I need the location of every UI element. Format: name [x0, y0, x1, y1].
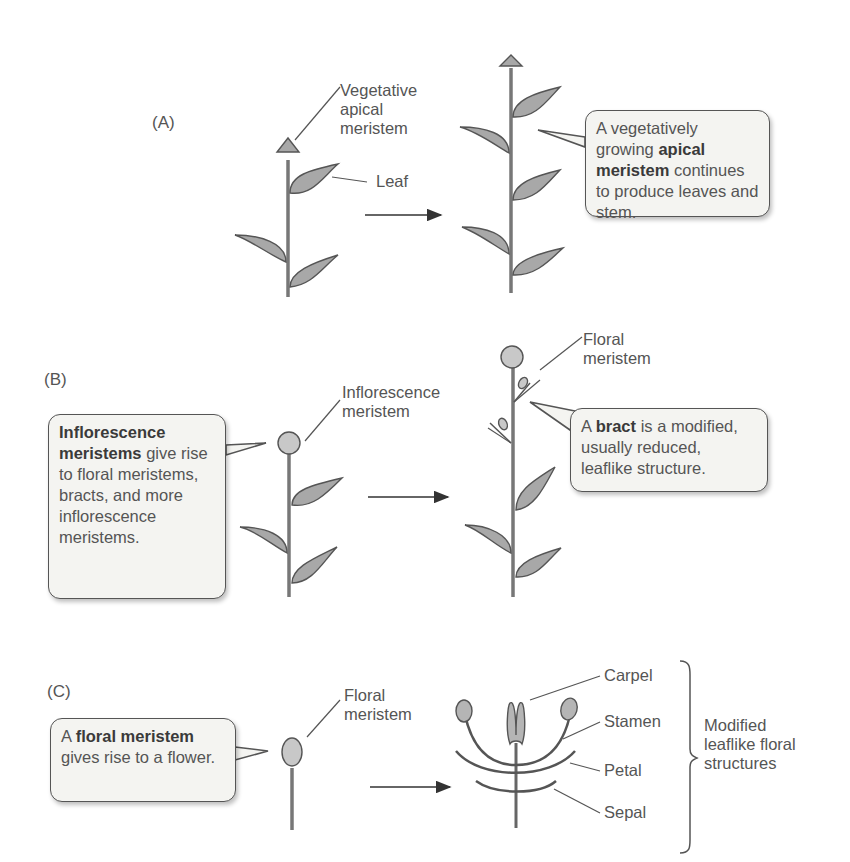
- vegetative-apical-meristem-label: Vegetative apical meristem: [340, 81, 417, 138]
- leader-lines: [295, 87, 600, 813]
- stamen-label: Stamen: [604, 712, 661, 731]
- floral-meristem-label-b: Floral meristem: [583, 330, 651, 368]
- panel-label-b: (B): [44, 370, 67, 390]
- inflorescence-meristem-label: Inflorescence meristem: [342, 383, 440, 421]
- modified-structures-label: Modified leaflike floral structures: [704, 716, 796, 773]
- callout-bract: A bract is a modified, usually reduced, …: [570, 408, 768, 492]
- floral-meristem-bud: [282, 738, 302, 830]
- floral-meristem-label-c: Floral meristem: [344, 686, 412, 724]
- petal-label: Petal: [604, 761, 642, 780]
- callout-apical-meristem: A vegetatively growing apical meristem c…: [585, 110, 770, 217]
- sepal-label: Sepal: [604, 803, 646, 822]
- plant-b-before: [240, 432, 342, 597]
- callout-floral-meristem: A floral meristem gives rise to a flower…: [50, 718, 236, 802]
- plant-a-before: [235, 138, 338, 297]
- carpel-label: Carpel: [604, 666, 653, 685]
- callout-inflorescence-meristems: Inflorescence meristems give rise to flo…: [48, 414, 226, 599]
- leaf-label: Leaf: [376, 172, 408, 191]
- plant-b-after: [465, 346, 561, 597]
- flower-structure: [456, 696, 580, 828]
- plant-a-after: [460, 55, 563, 293]
- panel-label-a: (A): [152, 113, 175, 133]
- panel-label-c: (C): [47, 682, 71, 702]
- bracket: [680, 661, 697, 853]
